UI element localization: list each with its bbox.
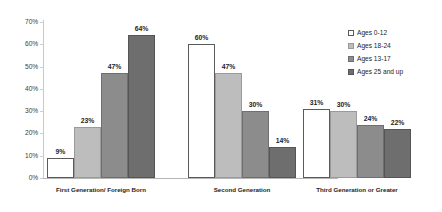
bar-column[interactable]: 47% [101, 22, 128, 178]
legend-swatch-icon [348, 30, 354, 36]
bar[interactable] [128, 35, 155, 178]
y-axis-tick-label: 30% [0, 107, 38, 114]
legend-item[interactable]: Ages 25 and up [348, 65, 403, 78]
bar-column[interactable]: 23% [74, 22, 101, 178]
bar-column[interactable]: 9% [47, 22, 74, 178]
y-axis-tick-label: 60% [0, 40, 38, 47]
bar[interactable] [330, 111, 357, 178]
y-axis-tick-mark [40, 178, 43, 179]
bar-value-label: 64% [135, 25, 149, 33]
category-label: Third Generation or Greater [316, 186, 398, 194]
bar-value-label: 14% [276, 137, 290, 145]
legend-label: Ages 18-24 [357, 42, 391, 50]
bar[interactable] [357, 125, 384, 178]
y-axis-tick-mark [40, 67, 43, 68]
legend-item[interactable]: Ages 18-24 [348, 39, 403, 52]
bar-value-label: 24% [364, 115, 378, 123]
bar-group-bars: 9%23%47%64% [47, 22, 155, 178]
bar-value-label: 47% [222, 63, 236, 71]
x-axis-baseline [43, 178, 338, 179]
legend-swatch-icon [348, 56, 354, 62]
y-axis-tick-mark [40, 22, 43, 23]
bar[interactable] [384, 129, 411, 178]
y-axis-tick-mark [40, 44, 43, 45]
bar-value-label: 31% [310, 99, 324, 107]
y-axis-tick-label: 0% [0, 174, 38, 181]
bar-column[interactable]: 60% [188, 22, 215, 178]
bar[interactable] [269, 147, 296, 178]
legend-swatch-icon [348, 43, 354, 49]
y-axis-line [43, 20, 44, 179]
y-axis-tick-label: 70% [0, 18, 38, 25]
y-axis-tick-mark [40, 89, 43, 90]
category-label: Second Generation [214, 186, 271, 194]
bar-value-label: 30% [249, 101, 263, 109]
plot-area: 70%60%50%40%30%20%10%0% 9%23%47%64%First… [0, 0, 442, 212]
bar-value-label: 22% [391, 119, 405, 127]
bar[interactable] [101, 73, 128, 178]
y-axis-tick-mark [40, 156, 43, 157]
y-axis-tick-label: 10% [0, 152, 38, 159]
legend-item[interactable]: Ages 13-17 [348, 52, 403, 65]
legend: Ages 0-12Ages 18-24Ages 13-17Ages 25 and… [348, 26, 403, 78]
bar-group-bars: 60%47%30%14% [188, 22, 296, 178]
y-axis-tick-label: 20% [0, 129, 38, 136]
category-label: First Generation/ Foreign Born [56, 186, 146, 194]
bar-column[interactable]: 30% [242, 22, 269, 178]
bar-value-label: 60% [195, 34, 209, 42]
y-axis-tick-label: 40% [0, 85, 38, 92]
bar-chart: 70%60%50%40%30%20%10%0% 9%23%47%64%First… [0, 0, 442, 212]
legend-label: Ages 0-12 [357, 29, 387, 37]
legend-item[interactable]: Ages 0-12 [348, 26, 403, 39]
bar-value-label: 47% [108, 63, 122, 71]
bar[interactable] [242, 111, 269, 178]
bar-column[interactable]: 14% [269, 22, 296, 178]
bar[interactable] [215, 73, 242, 178]
bar-value-label: 9% [56, 148, 66, 156]
bar[interactable] [303, 109, 330, 178]
bar[interactable] [47, 158, 74, 178]
bar-column[interactable]: 31% [303, 22, 330, 178]
bar-column[interactable]: 64% [128, 22, 155, 178]
bar-column[interactable]: 47% [215, 22, 242, 178]
y-axis-tick-mark [40, 111, 43, 112]
legend-label: Ages 25 and up [357, 68, 403, 76]
y-axis-tick-label: 50% [0, 63, 38, 70]
bar[interactable] [188, 44, 215, 178]
legend-label: Ages 13-17 [357, 55, 391, 63]
bar[interactable] [74, 127, 101, 178]
bar-value-label: 30% [337, 101, 351, 109]
y-axis-tick-mark [40, 133, 43, 134]
bar-value-label: 23% [81, 117, 95, 125]
legend-swatch-icon [348, 69, 354, 75]
